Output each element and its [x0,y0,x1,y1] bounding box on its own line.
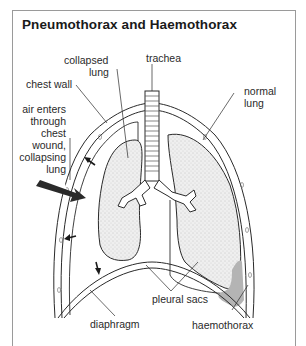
label-air-enters-6: lung [46,163,66,175]
collapsed-lung [98,140,142,260]
label-collapsed-lung-2: lung [89,66,109,78]
label-normal-lung-1: normal [244,85,276,97]
trachea [145,91,159,181]
label-air-enters-1: air enters [22,103,66,115]
label-normal-lung-2: lung [244,97,264,109]
label-haemothorax: haemothorax [192,319,254,331]
label-air-enters-2: through [30,115,66,127]
label-collapsed-lung-1: collapsed [64,54,109,66]
label-trachea: trachea [146,52,181,64]
label-pleural-sacs: pleural sacs [152,293,208,305]
label-air-enters-5: collapsing [19,151,66,163]
thorax-diagram: collapsed lung trachea chest wall normal… [0,0,306,346]
label-diaphragm: diaphragm [90,318,140,330]
label-air-enters-4: wound, [31,139,66,151]
label-air-enters-3: chest [41,127,66,139]
label-chest-wall: chest wall [26,78,72,90]
air-entry-arrow [36,180,86,202]
pressure-arrows [64,157,101,275]
